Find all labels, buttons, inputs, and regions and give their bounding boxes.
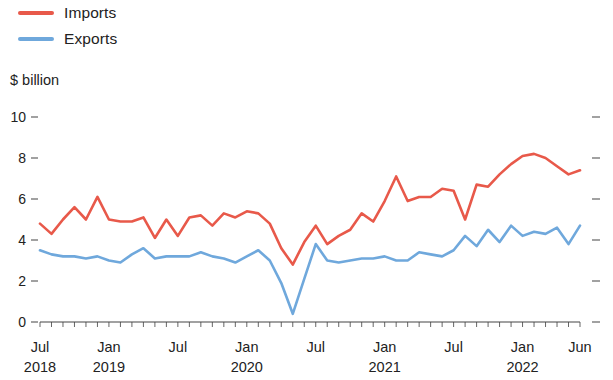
plot-area: 0246810 Jul2018Jan2019JulJan2020JulJan20…	[0, 0, 613, 380]
y-axis-ticks: 0246810	[10, 109, 38, 330]
x-tick-label-month: Jan	[511, 339, 534, 355]
x-tick-label-month: Jun	[568, 339, 591, 355]
series-line-exports	[40, 226, 580, 314]
trade-line-chart: Imports Exports $ billion 0246810 Jul201…	[0, 0, 613, 380]
x-tick-label-month: Jul	[169, 339, 188, 355]
series-line-imports	[40, 154, 580, 265]
x-tick-label-year: 2022	[506, 359, 538, 375]
x-tick-label-year: 2019	[93, 359, 125, 375]
x-axis-labels: Jul2018Jan2019JulJan2020JulJan2021JulJan…	[24, 339, 592, 375]
y-tick-label: 4	[18, 232, 26, 248]
x-tick-label-month: Jan	[97, 339, 120, 355]
right-axis-ticks	[592, 117, 600, 322]
x-tick-label-month: Jul	[31, 339, 50, 355]
y-tick-label: 10	[10, 109, 26, 125]
x-tick-label-month: Jul	[444, 339, 463, 355]
x-tick-label-year: 2021	[369, 359, 401, 375]
y-tick-label: 0	[18, 314, 26, 330]
x-tick-label-month: Jan	[235, 339, 258, 355]
x-tick-label-month: Jan	[373, 339, 396, 355]
data-series-group	[40, 154, 580, 314]
x-tick-label-month: Jul	[306, 339, 325, 355]
y-tick-label: 2	[18, 273, 26, 289]
x-tick-label-year: 2018	[24, 359, 56, 375]
x-tick-label-year: 2020	[231, 359, 263, 375]
x-axis-ticks	[40, 322, 580, 327]
y-tick-label: 8	[18, 150, 26, 166]
y-tick-label: 6	[18, 191, 26, 207]
